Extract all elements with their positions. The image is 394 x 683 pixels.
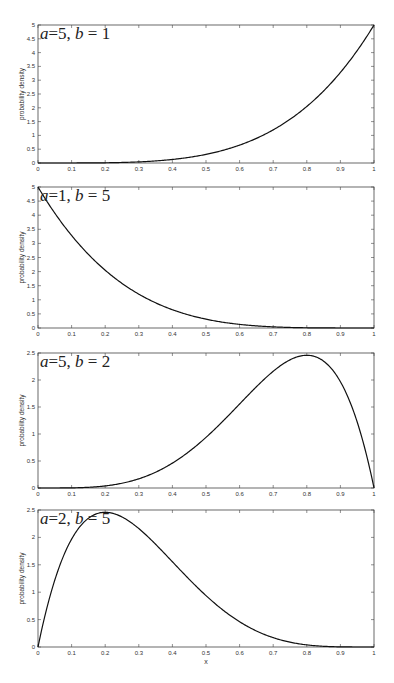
x-tick-label: 0.9 [336,491,345,497]
y-tick-label: 0.5 [27,146,36,152]
x-tick-label: 0.9 [336,166,345,172]
y-axis-label: probability density [18,394,26,447]
y-tick-label: 2 [32,105,36,111]
y-tick-label: 1 [32,431,36,437]
x-tick-label: 0.8 [303,491,312,497]
x-tick-label: 0 [36,331,40,337]
x-tick-label: 0.7 [269,166,278,172]
x-tick-label: 0.5 [202,166,211,172]
y-tick-label: 2.5 [27,255,36,261]
parameter-annotation: a=2, b = 5 [40,509,110,528]
x-tick-label: 0.4 [168,166,177,172]
y-tick-label: 1 [32,297,36,303]
y-tick-label: 2 [32,534,36,540]
axes-frame [38,25,374,163]
y-tick-label: 5 [32,184,36,190]
y-tick-label: 4.5 [27,36,36,42]
panel-4: 00.10.20.30.40.50.60.70.80.9100.511.522.… [18,507,376,665]
x-tick-label: 0 [36,491,40,497]
y-tick-label: 4.5 [27,198,36,204]
density-curve [38,187,374,328]
x-tick-label: 1 [372,166,376,172]
x-tick-label: 1 [372,650,376,656]
x-tick-label: 0.8 [303,650,312,656]
y-tick-label: 5 [32,22,36,28]
beta-distribution-figure: 00.10.20.30.40.50.60.70.80.9100.511.522.… [0,0,394,683]
x-tick-label: 0.6 [235,491,244,497]
axes-frame [38,187,374,328]
y-tick-label: 1.5 [27,119,36,125]
x-tick-label: 0.7 [269,331,278,337]
y-tick-label: 1.5 [27,283,36,289]
density-curve [38,355,374,488]
x-tick-label: 0.5 [202,650,211,656]
y-tick-label: 2 [32,269,36,275]
x-tick-label: 0.4 [168,491,177,497]
y-tick-label: 1.5 [27,404,36,410]
x-tick-label: 0.1 [67,491,76,497]
y-tick-label: 3.5 [27,226,36,232]
x-tick-label: 0.2 [101,331,110,337]
x-tick-label: 0.4 [168,650,177,656]
x-tick-label: 0.6 [235,166,244,172]
x-tick-label: 0.5 [202,491,211,497]
x-tick-label: 0.1 [67,650,76,656]
panel-1: 00.10.20.30.40.50.60.70.80.9100.511.522.… [18,22,376,172]
panel-3: 00.10.20.30.40.50.60.70.80.9100.511.522.… [18,350,376,497]
y-tick-label: 2.5 [27,91,36,97]
y-tick-label: 4 [32,50,36,56]
x-tick-label: 0.7 [269,491,278,497]
x-tick-label: 0.2 [101,650,110,656]
parameter-annotation: a=1, b = 5 [40,186,110,205]
axes-frame [38,353,374,488]
y-tick-label: 4 [32,212,36,218]
x-tick-label: 0.1 [67,331,76,337]
x-tick-label: 0.5 [202,331,211,337]
y-tick-label: 1 [32,589,36,595]
y-tick-label: 0.5 [27,458,36,464]
chart-canvas: 00.10.20.30.40.50.60.70.80.9100.511.522.… [0,0,394,683]
parameter-annotation: a=5, b = 2 [40,352,110,371]
y-tick-label: 0 [32,485,36,491]
x-tick-label: 0.2 [101,491,110,497]
x-tick-label: 1 [372,491,376,497]
y-tick-label: 1 [32,132,36,138]
x-tick-label: 0.3 [135,331,144,337]
x-tick-label: 0.8 [303,331,312,337]
axes-frame [38,510,374,647]
y-tick-label: 1.5 [27,562,36,568]
y-tick-label: 0 [32,325,36,331]
parameter-annotation: a=5, b = 1 [40,24,110,43]
x-tick-label: 0.9 [336,650,345,656]
y-tick-label: 3 [32,77,36,83]
x-tick-label: 0.8 [303,166,312,172]
y-axis-label: probability density [18,231,26,284]
y-tick-label: 3 [32,240,36,246]
x-tick-label: 1 [372,331,376,337]
y-tick-label: 2 [32,377,36,383]
x-tick-label: 0.7 [269,650,278,656]
y-tick-label: 0.5 [27,617,36,623]
panel-2: 00.10.20.30.40.50.60.70.80.9100.511.522.… [18,184,376,337]
x-tick-label: 0.3 [135,491,144,497]
x-tick-label: 0.1 [67,166,76,172]
density-curve [38,512,374,647]
x-tick-label: 0.2 [101,166,110,172]
y-tick-label: 0.5 [27,311,36,317]
y-tick-label: 3.5 [27,63,36,69]
x-tick-label: 0 [36,650,40,656]
y-tick-label: 2.5 [27,350,36,356]
x-tick-label: 0.3 [135,166,144,172]
y-tick-label: 2.5 [27,507,36,513]
y-tick-label: 0 [32,644,36,650]
x-axis-label: x [204,658,208,665]
density-curve [38,25,374,163]
x-tick-label: 0.6 [235,650,244,656]
x-tick-label: 0 [36,166,40,172]
x-tick-label: 0.9 [336,331,345,337]
x-tick-label: 0.4 [168,331,177,337]
y-axis-label: probability density [18,67,26,120]
x-tick-label: 0.3 [135,650,144,656]
y-tick-label: 0 [32,160,36,166]
y-axis-label: probability density [18,552,26,605]
